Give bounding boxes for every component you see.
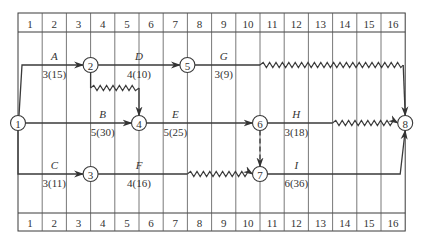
event-node: 3 — [83, 167, 98, 182]
top-time-scale: 12345678910111213141516 — [27, 18, 399, 30]
time-tick: 9 — [221, 18, 227, 30]
activity-name: D — [134, 50, 143, 62]
event-node: 6 — [253, 116, 268, 131]
activity-name: I — [293, 159, 299, 171]
time-tick: 14 — [339, 18, 351, 30]
activity-duration-cost: 3(11) — [43, 177, 67, 190]
event-node: 7 — [253, 167, 268, 182]
time-tick: 15 — [363, 217, 375, 229]
time-tick: 13 — [315, 18, 327, 30]
time-tick: 10 — [242, 18, 254, 30]
event-node: 1 — [11, 116, 26, 131]
time-tick: 7 — [173, 217, 179, 229]
activity-name: F — [135, 159, 143, 171]
time-tick: 8 — [197, 217, 203, 229]
event-node: 8 — [398, 116, 413, 131]
time-tick: 11 — [267, 217, 278, 229]
time-tick: 6 — [148, 217, 154, 229]
activity-duration-cost: 6(36) — [284, 177, 308, 190]
svg-text:5: 5 — [185, 60, 191, 72]
activity-name: C — [51, 159, 59, 171]
time-tick: 4 — [100, 18, 106, 30]
activity-duration-cost: 5(30) — [91, 126, 115, 139]
time-tick: 3 — [76, 217, 82, 229]
time-tick: 1 — [27, 217, 33, 229]
time-tick: 2 — [52, 217, 58, 229]
event-node: 5 — [180, 58, 195, 73]
bottom-time-scale: 12345678910111213141516 — [27, 217, 399, 229]
time-tick: 10 — [242, 217, 254, 229]
time-tick: 15 — [363, 18, 375, 30]
time-tick: 16 — [388, 217, 400, 229]
activity-duration-cost: 4(10) — [127, 68, 151, 81]
svg-text:2: 2 — [88, 60, 94, 72]
svg-text:8: 8 — [402, 118, 408, 130]
activity-name: E — [171, 108, 179, 120]
activity-duration-cost: 3(18) — [284, 126, 308, 139]
time-tick: 2 — [52, 18, 58, 30]
time-tick: 12 — [291, 18, 302, 30]
network-diagram: 12345678910111213141516 1234567891011121… — [0, 0, 423, 240]
activity-duration-cost: 5(25) — [163, 126, 187, 139]
time-tick: 8 — [197, 18, 203, 30]
time-tick: 9 — [221, 217, 227, 229]
svg-text:3: 3 — [88, 169, 94, 181]
time-tick: 11 — [267, 18, 278, 30]
time-tick: 16 — [388, 18, 400, 30]
activity-name: B — [99, 108, 106, 120]
time-tick: 3 — [76, 18, 82, 30]
time-tick: 13 — [315, 217, 327, 229]
svg-text:6: 6 — [257, 118, 263, 130]
activity-duration-cost: 3(9) — [215, 68, 234, 81]
time-tick: 5 — [124, 18, 130, 30]
svg-text:7: 7 — [257, 169, 263, 181]
time-tick: 14 — [339, 217, 351, 229]
time-tick: 4 — [100, 217, 106, 229]
time-tick: 1 — [27, 18, 33, 30]
activity-name: G — [220, 50, 228, 62]
event-node: 4 — [132, 116, 147, 131]
activity-name: H — [291, 108, 301, 120]
svg-text:1: 1 — [15, 118, 21, 130]
activity-name: A — [50, 50, 58, 62]
activity-duration-cost: 4(16) — [127, 177, 151, 190]
time-tick: 7 — [173, 18, 179, 30]
activity-labels: A3(15)B5(30)C3(11)D4(10)E5(25)F4(16)G3(9… — [42, 50, 308, 190]
activity-duration-cost: 3(15) — [42, 68, 66, 81]
time-tick: 6 — [148, 18, 154, 30]
event-node: 2 — [83, 58, 98, 73]
time-tick: 12 — [291, 217, 302, 229]
time-tick: 5 — [124, 217, 130, 229]
svg-text:4: 4 — [136, 118, 142, 130]
